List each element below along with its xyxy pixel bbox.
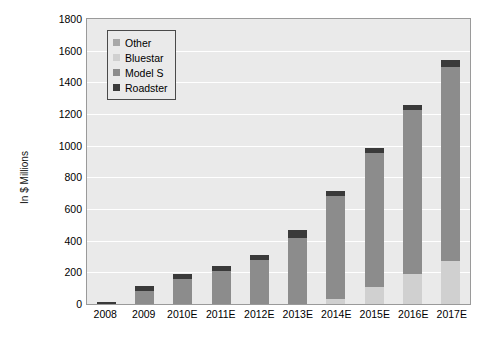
bar-segment-model-s[interactable]	[173, 279, 192, 304]
stacked-bar[interactable]	[173, 274, 192, 304]
bar-slot	[393, 19, 431, 304]
stacked-bar-chart: In $ Millions 18001600140012001000800600…	[0, 0, 501, 355]
legend-item[interactable]: Model S	[113, 65, 168, 80]
x-axis-tick-label: 2016E	[394, 308, 433, 320]
x-axis-tick-label: 2011E	[202, 308, 241, 320]
x-axis-tick-label: 2008	[86, 308, 125, 320]
stacked-bar[interactable]	[250, 255, 269, 304]
stacked-bar[interactable]	[212, 266, 231, 304]
stacked-bar[interactable]	[441, 60, 460, 304]
bar-slot	[317, 19, 355, 304]
legend-swatch-icon	[113, 39, 120, 46]
bar-segment-model-s[interactable]	[365, 153, 384, 287]
bar-segment-model-s[interactable]	[441, 67, 460, 262]
stacked-bar[interactable]	[326, 191, 345, 304]
legend-item-label: Roadster	[125, 82, 168, 94]
x-axis-tick-label: 2014E	[317, 308, 356, 320]
bar-segment-model-s[interactable]	[326, 196, 345, 299]
bar-segment-model-s[interactable]	[403, 110, 422, 274]
stacked-bar[interactable]	[135, 286, 154, 304]
x-axis-tick-label: 2013E	[279, 308, 318, 320]
bar-segment-roadster[interactable]	[97, 302, 116, 304]
bar-segment-bluestar[interactable]	[441, 261, 460, 304]
y-axis-ticks: 180016001400120010008006004002000	[18, 18, 82, 305]
x-axis-tick-label: 2015E	[356, 308, 395, 320]
bar-slot	[355, 19, 393, 304]
bar-segment-bluestar[interactable]	[365, 287, 384, 304]
stacked-bar[interactable]	[288, 230, 307, 304]
bar-slot	[240, 19, 278, 304]
bar-segment-model-s[interactable]	[212, 271, 231, 304]
y-axis-tick-label: 800	[22, 172, 82, 182]
bar-segment-roadster[interactable]	[288, 230, 307, 237]
y-axis-tick-label: 1400	[22, 77, 82, 87]
bar-slot	[278, 19, 316, 304]
y-axis-tick-label: 1600	[22, 46, 82, 56]
bar-segment-bluestar[interactable]	[326, 299, 345, 304]
stacked-bar[interactable]	[97, 302, 116, 304]
legend-item[interactable]: Other	[113, 35, 168, 50]
legend-swatch-icon	[113, 54, 120, 61]
bar-slot	[202, 19, 240, 304]
legend-item-label: Other	[125, 37, 151, 49]
legend-item[interactable]: Bluestar	[113, 50, 168, 65]
chart-legend: OtherBluestarModel SRoadster	[107, 30, 176, 100]
y-axis-tick-label: 400	[22, 236, 82, 246]
x-axis-tick-label: 2012E	[240, 308, 279, 320]
bar-segment-model-s[interactable]	[135, 291, 154, 304]
y-axis-tick-label: 600	[22, 204, 82, 214]
legend-item-label: Model S	[125, 67, 164, 79]
x-axis-tick-label: 2009	[125, 308, 164, 320]
bar-slot	[432, 19, 470, 304]
bar-segment-bluestar[interactable]	[403, 274, 422, 304]
y-axis-tick-label: 1000	[22, 141, 82, 151]
bar-segment-model-s[interactable]	[288, 238, 307, 305]
y-axis-tick-label: 1200	[22, 109, 82, 119]
y-axis-tick-label: 0	[22, 299, 82, 309]
x-axis-tick-label: 2017E	[433, 308, 472, 320]
stacked-bar[interactable]	[403, 105, 422, 304]
legend-item[interactable]: Roadster	[113, 80, 168, 95]
legend-swatch-icon	[113, 84, 120, 91]
legend-swatch-icon	[113, 69, 120, 76]
bar-segment-model-s[interactable]	[250, 260, 269, 304]
y-axis-tick-label: 1800	[22, 14, 82, 24]
x-axis-ticks: 200820092010E2011E2012E2013E2014E2015E20…	[86, 308, 471, 320]
legend-item-label: Bluestar	[125, 52, 164, 64]
stacked-bar[interactable]	[365, 148, 384, 304]
y-axis-tick-label: 200	[22, 267, 82, 277]
x-axis-tick-label: 2010E	[163, 308, 202, 320]
